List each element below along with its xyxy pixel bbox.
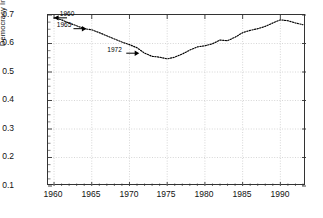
x-tick-label: 1975: [149, 190, 183, 199]
x-tick-label: 1985: [225, 190, 259, 199]
annotation-arrows: [48, 15, 304, 184]
chart-figure: Democracy Index 0.7 0.6 0.5 0.4 0.3 0.2 …: [0, 0, 323, 218]
y-tick-label: 0.4: [0, 95, 14, 104]
y-tick-label: 0.1: [0, 181, 14, 190]
y-tick-label: 0.7: [0, 10, 14, 19]
y-tick-label: 0.3: [0, 124, 14, 133]
y-tick-label: 0.2: [0, 152, 14, 161]
x-tick-label: 1970: [112, 190, 146, 199]
annotation-label-1965: 1965: [57, 22, 71, 29]
annotation-label-1960: 1960: [60, 11, 74, 18]
x-tick-label: 1960: [36, 190, 70, 199]
plot-area: [47, 14, 305, 185]
x-tick-label: 1965: [74, 190, 108, 199]
y-tick-label: 0.6: [0, 38, 14, 47]
y-tick-label: 0.5: [0, 67, 14, 76]
x-tick-label: 1990: [263, 190, 297, 199]
annotation-label-1972: 1972: [107, 47, 121, 54]
x-tick-label: 1980: [187, 190, 221, 199]
